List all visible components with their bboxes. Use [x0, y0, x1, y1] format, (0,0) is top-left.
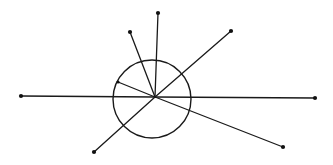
endpoint-dot-right	[313, 96, 317, 100]
spokes-group	[21, 13, 315, 152]
spoke-lower-right	[155, 97, 283, 147]
endpoint-dot-lower-right	[281, 145, 285, 149]
spoke-right	[155, 97, 315, 98]
endpoint-dot-top	[156, 11, 160, 15]
endpoint-dot-upper-right	[229, 29, 233, 33]
spoke-upper-right	[155, 31, 231, 97]
endpoint-dots-group	[19, 11, 317, 154]
spoke-lower-left	[94, 97, 155, 152]
endpoint-dot-upper-left	[128, 30, 132, 34]
spoke-left	[21, 96, 155, 97]
spoke-diagram	[0, 0, 333, 165]
endpoint-dot-left	[19, 94, 23, 98]
endpoint-dot-lower-left	[92, 150, 96, 154]
endpoint-dot-short-left	[116, 80, 119, 83]
spoke-top	[155, 13, 158, 97]
